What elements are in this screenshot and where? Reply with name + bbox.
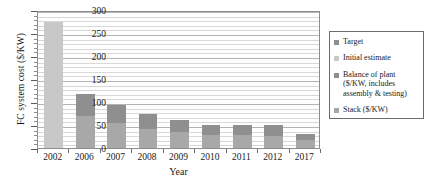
bar-segment-bop: [202, 125, 221, 135]
y-minor-tick-mark: [34, 16, 37, 17]
legend-item-stack[interactable]: Stack ($/KW): [334, 105, 420, 114]
y-tick-label: 100: [60, 99, 106, 109]
bar-2008[interactable]: [139, 114, 158, 148]
y-minor-tick-mark: [34, 75, 37, 76]
bar-2007[interactable]: [107, 105, 126, 148]
bar-2009[interactable]: [170, 120, 189, 148]
legend-label-initial-estimate: Initial estimate: [343, 53, 391, 62]
x-tick-label-2017: 2017: [284, 152, 324, 162]
bar-segment-bop: [139, 114, 158, 129]
x-tick-mark: [194, 149, 195, 153]
y-tick-mark: [31, 11, 37, 12]
x-tick-mark: [289, 149, 290, 153]
y-minor-tick-mark: [34, 71, 37, 72]
y-tick-label: 50: [60, 122, 106, 132]
chart-figure: FC system cost ($/KW) 050100150200250300…: [0, 0, 428, 187]
legend-swatch-balance-of-plant: [334, 73, 339, 78]
legend-swatch-stack: [334, 108, 339, 113]
y-minor-tick-mark: [34, 135, 37, 136]
bar-segment-bop: [233, 125, 252, 135]
bar-segment-bop: [170, 120, 189, 132]
y-minor-tick-mark: [34, 52, 37, 53]
legend-item-target[interactable]: Target: [334, 37, 420, 46]
y-minor-tick-mark: [34, 25, 37, 26]
x-axis-title: Year: [37, 166, 320, 177]
bar-segment-stack: [202, 135, 221, 148]
legend-label-balance-of-plant: Balance of plant ($/KW, includes assembl…: [343, 70, 407, 98]
bar-segment-bop: [264, 125, 283, 135]
y-minor-tick-mark: [34, 20, 37, 21]
bar-segment-stack: [233, 135, 252, 148]
y-tick-label: 250: [60, 30, 106, 40]
bar-segment-stack: [296, 140, 315, 148]
legend-label-stack: Stack ($/KW): [343, 105, 388, 114]
chart-legend: Target Initial estimate Balance of plant…: [329, 31, 424, 119]
y-tick-mark: [31, 103, 37, 104]
y-tick-mark: [31, 80, 37, 81]
bar-2012[interactable]: [264, 125, 283, 148]
y-axis-title: FC system cost ($/KW): [16, 9, 26, 149]
legend-label-target: Target: [343, 37, 363, 46]
bar-segment-bop: [107, 105, 126, 123]
bar-2011[interactable]: [233, 125, 252, 148]
y-minor-tick-mark: [34, 29, 37, 30]
y-tick-label: 150: [60, 76, 106, 86]
legend-label-bop-line1: Balance of plant: [343, 70, 407, 79]
y-minor-tick-mark: [34, 121, 37, 122]
y-minor-tick-mark: [34, 108, 37, 109]
y-minor-tick-mark: [34, 117, 37, 118]
x-tick-mark: [131, 149, 132, 153]
x-tick-mark: [100, 149, 101, 153]
legend-swatch-initial-estimate: [334, 56, 339, 61]
y-minor-tick-mark: [34, 131, 37, 132]
x-tick-mark: [257, 149, 258, 153]
y-tick-label: 300: [60, 7, 106, 17]
bar-segment-stack: [170, 132, 189, 148]
y-minor-tick-mark: [34, 144, 37, 145]
y-minor-tick-mark: [34, 39, 37, 40]
x-tick-mark: [320, 149, 321, 153]
y-minor-tick-mark: [34, 140, 37, 141]
bar-2010[interactable]: [202, 125, 221, 148]
y-minor-tick-mark: [34, 85, 37, 86]
bar-segment-stack: [107, 123, 126, 148]
y-tick-mark: [31, 57, 37, 58]
bar-2017[interactable]: [296, 134, 315, 148]
bar-segment-stack: [264, 136, 283, 148]
legend-item-balance-of-plant[interactable]: Balance of plant ($/KW, includes assembl…: [334, 70, 420, 98]
y-minor-tick-mark: [34, 66, 37, 67]
y-minor-tick-mark: [34, 89, 37, 90]
y-minor-tick-mark: [34, 62, 37, 63]
bar-segment-stack: [76, 116, 95, 148]
bar-segment-stack: [139, 129, 158, 148]
y-minor-tick-mark: [34, 112, 37, 113]
y-tick-mark: [31, 126, 37, 127]
y-minor-tick-mark: [34, 98, 37, 99]
y-minor-tick-mark: [34, 43, 37, 44]
x-tick-mark: [226, 149, 227, 153]
y-minor-tick-mark: [34, 94, 37, 95]
x-tick-mark: [37, 149, 38, 153]
y-minor-tick-mark: [34, 48, 37, 49]
x-tick-mark: [68, 149, 69, 153]
legend-label-bop-line3: assembly & testing): [343, 89, 407, 98]
x-tick-mark: [163, 149, 164, 153]
legend-item-initial-estimate[interactable]: Initial estimate: [334, 53, 420, 62]
legend-label-bop-line2: ($/KW, includes: [343, 79, 407, 88]
y-tick-mark: [31, 34, 37, 35]
y-tick-label: 200: [60, 53, 106, 63]
legend-swatch-target: [334, 40, 339, 45]
